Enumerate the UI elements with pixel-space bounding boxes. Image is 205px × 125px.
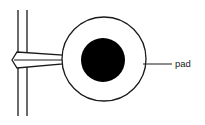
pad-label: pad [175, 58, 191, 69]
teardrop-neck [12, 52, 63, 68]
pad-diagram: pad [0, 0, 205, 125]
pad-hole [81, 38, 125, 82]
